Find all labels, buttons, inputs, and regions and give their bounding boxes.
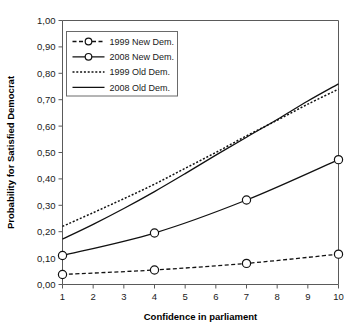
series-line-2 <box>63 89 339 226</box>
series-line-0 <box>63 254 339 274</box>
series-marker-1 <box>58 251 66 259</box>
chart-figure: 0,000,100,200,300,400,500,600,700,800,90… <box>0 0 361 327</box>
x-tick-label: 9 <box>305 291 310 302</box>
x-tick-label: 5 <box>183 291 188 302</box>
x-tick-label: 8 <box>275 291 280 302</box>
y-tick-label: 0,90 <box>37 41 56 52</box>
x-tick-label: 2 <box>91 291 96 302</box>
legend-label-2: 1999 Old Dem. <box>110 67 171 77</box>
y-tick-label: 0,40 <box>37 173 56 184</box>
x-tick-label: 1 <box>60 291 65 302</box>
series-line-1 <box>63 160 339 256</box>
series-marker-0 <box>242 259 250 267</box>
x-tick-label: 3 <box>121 291 126 302</box>
series-marker-1 <box>242 196 250 204</box>
series-marker-0 <box>150 266 158 274</box>
x-tick-label: 10 <box>333 291 344 302</box>
y-tick-label: 0,20 <box>37 226 56 237</box>
x-axis-title: Confidence in parliament <box>144 311 258 322</box>
series-marker-0 <box>58 270 66 278</box>
y-tick-label: 0,70 <box>37 94 56 105</box>
x-tick-label: 4 <box>152 291 157 302</box>
legend-label-1: 2008 New Dem. <box>110 52 175 62</box>
y-tick-label: 0,10 <box>37 253 56 264</box>
y-tick-label: 0,30 <box>37 200 56 211</box>
x-tick-label: 6 <box>213 291 218 302</box>
legend-label-0: 1999 New Dem. <box>110 37 175 47</box>
series-marker-0 <box>334 250 342 258</box>
legend-marker-1 <box>85 54 92 61</box>
series-marker-1 <box>334 156 342 164</box>
y-axis-title: Probability for Satisfied Democrat <box>5 75 16 229</box>
y-tick-label: 0,80 <box>37 68 56 79</box>
series-line-3 <box>63 84 339 239</box>
y-tick-label: 1,00 <box>37 15 56 26</box>
y-tick-label: 0,50 <box>37 147 56 158</box>
y-tick-label: 0,00 <box>37 279 56 290</box>
y-tick-label: 0,60 <box>37 121 56 132</box>
series-marker-1 <box>150 229 158 237</box>
x-tick-label: 7 <box>244 291 249 302</box>
line-chart: 0,000,100,200,300,400,500,600,700,800,90… <box>0 0 361 327</box>
legend-label-3: 2008 Old Dem. <box>110 83 171 93</box>
legend-marker-0 <box>85 38 92 45</box>
